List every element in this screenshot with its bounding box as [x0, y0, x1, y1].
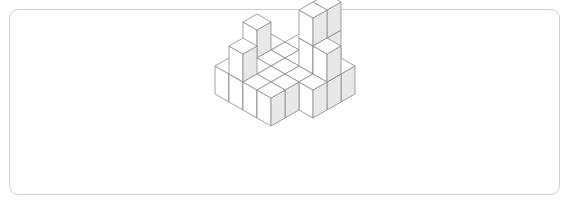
screenshot-canvas [0, 0, 571, 206]
cube [299, 2, 327, 46]
cube [257, 82, 285, 126]
cube-group [215, 0, 355, 126]
cube [229, 38, 257, 82]
voxel-stack-svg [0, 0, 571, 206]
isometric-cube-figure [0, 0, 571, 206]
cube [299, 74, 327, 118]
cube [313, 38, 341, 82]
